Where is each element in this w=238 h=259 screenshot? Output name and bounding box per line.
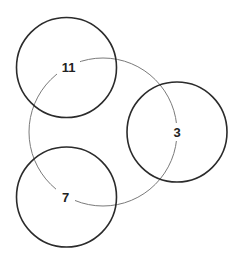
label-group-11: 11 — [57, 59, 80, 76]
node-label-11: 11 — [62, 60, 76, 75]
label-group-7: 7 — [56, 188, 75, 206]
node-label-7: 7 — [62, 190, 69, 205]
node-label-3: 3 — [173, 125, 180, 140]
central-ring — [29, 58, 177, 206]
circle-diagram: 11 3 7 — [0, 0, 238, 259]
label-group-3: 3 — [170, 123, 184, 141]
